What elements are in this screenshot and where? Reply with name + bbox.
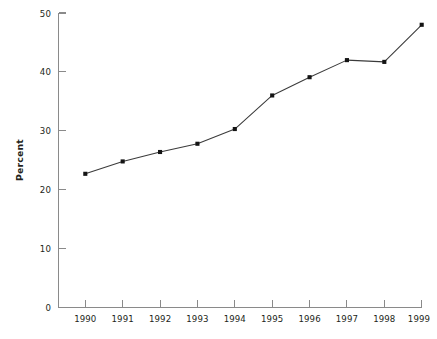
- data-point-1999: [420, 23, 424, 27]
- data-point-1992: [158, 150, 162, 154]
- data-point-1991: [121, 159, 125, 163]
- y-tick-label-30: 30: [40, 126, 51, 136]
- x-tick-label-1997: 1997: [336, 314, 358, 324]
- y-tick-label-40: 40: [40, 67, 51, 77]
- y-tick-group-0: 0: [45, 303, 51, 313]
- chart-background: [0, 0, 437, 339]
- data-point-1990: [83, 172, 87, 176]
- y-tick-label-20: 20: [40, 185, 51, 195]
- y-tick-label-10: 10: [40, 244, 51, 254]
- y-tick-label-0: 0: [45, 303, 51, 313]
- data-point-1996: [308, 75, 312, 79]
- y-tick-label-50: 50: [40, 9, 51, 19]
- x-tick-label-1990: 1990: [74, 314, 96, 324]
- y-axis-label: Percent: [14, 139, 25, 181]
- data-point-1998: [382, 60, 386, 64]
- x-tick-label-1994: 1994: [224, 314, 246, 324]
- data-point-1995: [270, 93, 274, 97]
- x-tick-label-1999: 1999: [408, 314, 430, 324]
- data-point-1997: [345, 58, 349, 62]
- x-tick-label-1995: 1995: [261, 314, 283, 324]
- x-tick-label-1993: 1993: [186, 314, 208, 324]
- chart-figure: Percent 50 40 30 20 10: [0, 0, 437, 339]
- x-tick-label-1998: 1998: [373, 314, 395, 324]
- x-tick-label-1996: 1996: [298, 314, 320, 324]
- line-chart: Percent 50 40 30 20 10: [0, 0, 437, 339]
- data-point-1993: [195, 142, 199, 146]
- data-point-1994: [233, 127, 237, 131]
- x-tick-label-1992: 1992: [149, 314, 171, 324]
- x-tick-label-1991: 1991: [112, 314, 134, 324]
